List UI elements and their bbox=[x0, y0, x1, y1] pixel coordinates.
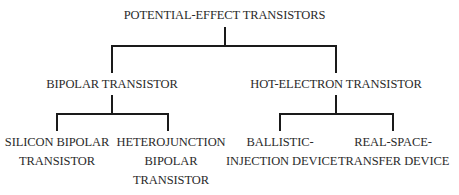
connector-to-real-space bbox=[392, 113, 394, 131]
node-line: HETEROJUNCTION bbox=[116, 133, 226, 152]
node-line: TRANSISTOR bbox=[116, 171, 226, 190]
connector-to-heterojunction bbox=[167, 113, 169, 131]
connector-bipolar-stem bbox=[111, 95, 113, 114]
node-line: BIPOLAR bbox=[116, 152, 226, 171]
connector-bipolar-bar bbox=[56, 113, 169, 115]
node-ballistic-injection-device: BALLISTIC- INJECTION DEVICE bbox=[226, 133, 334, 171]
node-real-space-transfer-device: REAL-SPACE- TRANSFER DEVICE bbox=[338, 133, 448, 171]
node-bipolar-transistor: BIPOLAR TRANSISTOR bbox=[31, 75, 193, 94]
node-line: BALLISTIC- bbox=[226, 133, 334, 152]
node-heterojunction-bipolar-transistor: HETEROJUNCTION BIPOLAR TRANSISTOR bbox=[116, 133, 226, 190]
connector-hot-electron-bar bbox=[279, 113, 394, 115]
node-line: SILICON BIPOLAR bbox=[2, 133, 112, 152]
node-line: TRANSISTOR bbox=[2, 152, 112, 171]
connector-root-stem bbox=[224, 27, 226, 47]
node-hot-electron-transistor: HOT-ELECTRON TRANSISTOR bbox=[250, 75, 422, 94]
node-potential-effect-transistors: POTENTIAL-EFFECT TRANSISTORS bbox=[0, 6, 449, 25]
connector-to-silicon-bipolar bbox=[56, 113, 58, 131]
connector-to-hot-electron bbox=[335, 45, 337, 73]
node-line: TRANSFER DEVICE bbox=[338, 152, 448, 171]
connector-to-bipolar bbox=[111, 45, 113, 73]
node-line: INJECTION DEVICE bbox=[226, 152, 334, 171]
connector-root-bar bbox=[111, 45, 337, 47]
node-line: REAL-SPACE- bbox=[338, 133, 448, 152]
node-silicon-bipolar-transistor: SILICON BIPOLAR TRANSISTOR bbox=[2, 133, 112, 171]
connector-to-ballistic bbox=[279, 113, 281, 131]
connector-hot-electron-stem bbox=[335, 95, 337, 114]
